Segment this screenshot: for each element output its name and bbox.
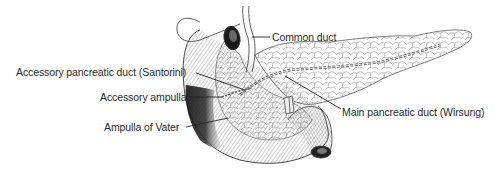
pancreas-illustration [0, 0, 502, 186]
pancreas-anatomy-diagram: Common duct Accessory pancreatic duct (S… [0, 0, 502, 186]
label-santorini-duct: Accessory pancreatic duct (Santorini) [16, 66, 186, 78]
label-wirsung-duct: Main pancreatic duct (Wirsung) [342, 106, 484, 118]
label-common-duct: Common duct [272, 31, 336, 43]
label-accessory-ampulla: Accessory ampulla [100, 91, 186, 103]
label-ampulla-of-vater: Ampulla of Vater [104, 121, 179, 133]
